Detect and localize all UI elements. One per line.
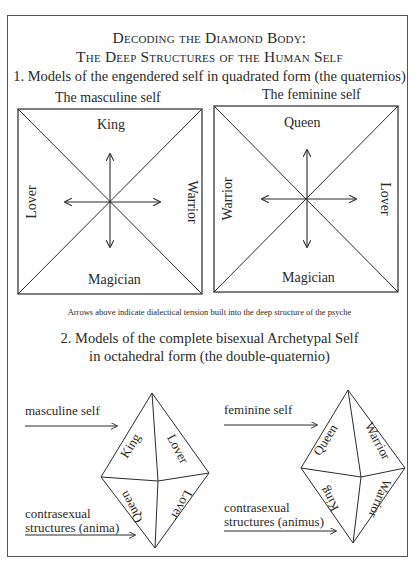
feminine-quaternio bbox=[214, 106, 398, 292]
feminine-octa-queen-label: Queen bbox=[310, 421, 341, 458]
masculine-octa-queen-label: Queen bbox=[116, 488, 145, 525]
feminine-octa-warrior-upper-label: Warrior bbox=[362, 420, 394, 463]
feminine-lover-label: Lover bbox=[378, 182, 393, 216]
masculine-octa-lover-lower-label: Lover bbox=[168, 488, 196, 523]
feminine-tension-arrows-icon bbox=[262, 150, 356, 247]
masculine-octa-king-label: King bbox=[117, 430, 144, 460]
masculine-quaternio bbox=[18, 109, 202, 294]
feminine-warrior-label: Warrior bbox=[220, 177, 235, 221]
masculine-warrior-label: Warrior bbox=[185, 180, 200, 224]
masculine-lover-label: Lover bbox=[24, 185, 39, 219]
feminine-octahedron bbox=[301, 390, 405, 543]
feminine-octa-king-label: King bbox=[316, 484, 342, 514]
diagram-graphics: Lover Warrior Warrior Lover King Lover Q… bbox=[0, 0, 419, 569]
feminine-octa-warrior-lower-label: Warrior bbox=[365, 477, 394, 520]
masculine-octa-lover-upper-label: Lover bbox=[164, 432, 192, 467]
masculine-octahedron bbox=[101, 393, 209, 548]
